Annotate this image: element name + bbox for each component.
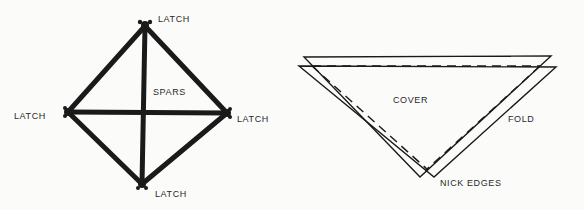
spar-bottom-left <box>68 112 142 184</box>
latch-label-bottom: LATCH <box>155 189 187 199</box>
latch-knots <box>63 20 232 190</box>
fold-line-left <box>312 66 428 170</box>
fold-lines <box>312 66 540 170</box>
spar-frame <box>68 26 227 184</box>
spar-vertical <box>142 26 145 184</box>
spars-label: SPARS <box>153 87 186 97</box>
spar-horizontal <box>68 112 227 113</box>
fold-label: FOLD <box>508 114 534 124</box>
latch-knot-top <box>138 20 152 29</box>
spar-bottom-right <box>142 113 227 184</box>
latch-label-top: LATCH <box>158 14 190 24</box>
nick-edges-label: NICK EDGES <box>440 178 502 188</box>
spar-top-right <box>145 26 227 113</box>
latch-label-left: LATCH <box>14 111 46 121</box>
spar-top-left <box>68 26 145 112</box>
latch-label-right: LATCH <box>237 114 269 124</box>
cover-label: COVER <box>393 95 428 105</box>
